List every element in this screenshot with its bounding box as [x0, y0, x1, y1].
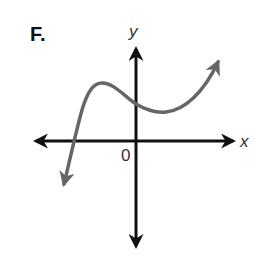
function-curve [64, 62, 218, 184]
y-axis-label: y [128, 22, 139, 41]
graph: y x 0 [0, 0, 256, 268]
x-axis-label: x [239, 132, 249, 151]
origin-label: 0 [121, 146, 130, 165]
